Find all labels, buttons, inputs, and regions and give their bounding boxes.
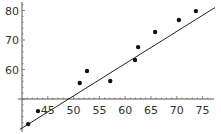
- x-tick-label: 50: [67, 104, 81, 117]
- data-point: [153, 30, 157, 34]
- data-point: [136, 45, 140, 49]
- y-tick-label: 70: [5, 34, 19, 47]
- x-tick-label: 55: [92, 104, 106, 117]
- x-tick-label: 70: [170, 104, 184, 117]
- data-point: [78, 81, 82, 85]
- data-point: [26, 122, 30, 126]
- y-axis-ticks: 607080: [5, 5, 19, 77]
- data-point: [108, 79, 112, 83]
- data-point: [85, 69, 89, 73]
- y-tick-label: 60: [5, 64, 19, 77]
- x-axis-ticks: 45505560657075: [41, 104, 210, 117]
- data-point: [177, 18, 181, 22]
- x-tick-label: 60: [118, 104, 132, 117]
- data-point: [133, 58, 137, 62]
- data-point: [194, 9, 198, 13]
- x-tick-label: 65: [144, 104, 158, 117]
- x-tick-label: 75: [196, 104, 210, 117]
- scatter-chart: 607080 45505560657075: [0, 0, 221, 134]
- y-tick-label: 80: [5, 5, 19, 18]
- data-point: [36, 109, 40, 113]
